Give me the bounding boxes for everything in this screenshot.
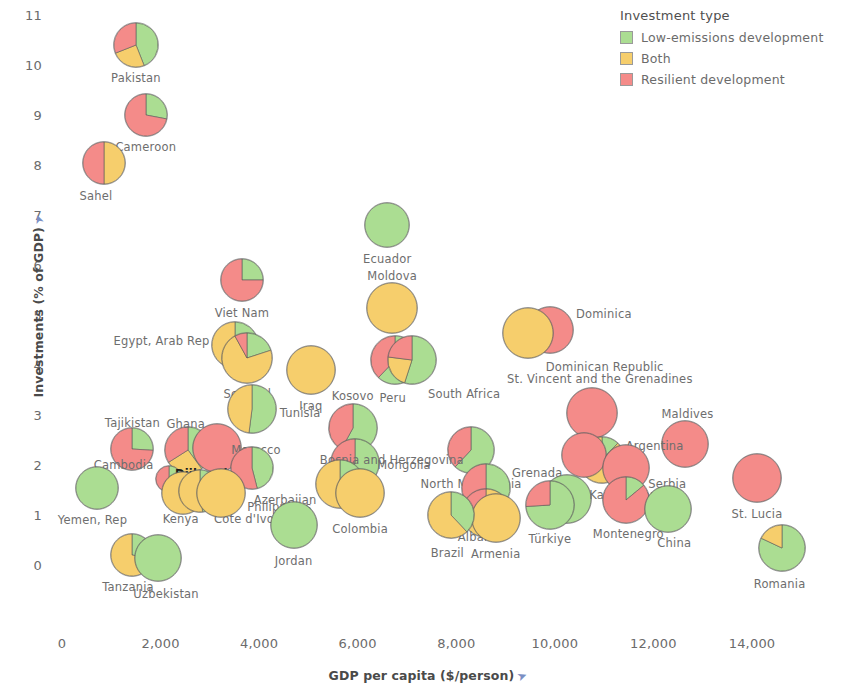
pie-slice-both — [336, 469, 384, 517]
pie-slice-low — [271, 502, 317, 548]
pie-marker[interactable] — [227, 384, 277, 434]
pie-slice-resilient — [526, 481, 550, 507]
pie-slice-low — [75, 467, 117, 509]
y-axis-tick: 11 — [12, 8, 42, 23]
pie-marker[interactable] — [134, 534, 182, 582]
legend-item-resilient[interactable]: Resilient development — [620, 72, 823, 87]
legend-title: Investment type — [620, 8, 823, 23]
pie-slice-both — [503, 308, 553, 358]
point-label: Moldova — [367, 269, 417, 283]
pie-slice-low — [365, 203, 409, 247]
point-label: Uzbekistan — [133, 587, 199, 601]
x-axis-title: GDP per capita ($/person)➤ — [0, 668, 856, 683]
pie-slice-resilient — [83, 142, 104, 184]
point-label: Türkiye — [529, 532, 572, 546]
point-label: Yemen, Rep — [58, 513, 127, 527]
pie-marker[interactable] — [525, 480, 575, 530]
pie-marker[interactable] — [644, 485, 692, 533]
pie-marker[interactable] — [427, 491, 475, 539]
legend-items: Low-emissions developmentBothResilient d… — [620, 30, 823, 87]
pie-slice-low — [242, 259, 263, 280]
point-label: Sahel — [79, 189, 112, 203]
legend-item-label: Both — [641, 51, 671, 66]
y-axis-tick: 2 — [12, 458, 42, 473]
pie-slice-resilient — [562, 433, 606, 477]
point-label: Peru — [379, 391, 405, 405]
pie-marker[interactable] — [758, 524, 806, 572]
pie-slice-resilient — [733, 454, 781, 502]
pie-slice-both — [472, 494, 520, 542]
legend-swatch-icon — [620, 52, 633, 65]
point-label: China — [657, 536, 691, 550]
y-axis-tick: 8 — [12, 158, 42, 173]
pie-marker[interactable] — [82, 141, 126, 185]
pie-marker[interactable] — [387, 335, 437, 385]
legend-swatch-icon — [620, 31, 633, 44]
point-label: Jordan — [275, 554, 313, 568]
pie-marker[interactable] — [561, 432, 607, 478]
point-label: Cameroon — [115, 140, 176, 154]
x-axis-tick: 8,000 — [421, 636, 491, 651]
x-axis-tick: 14,000 — [717, 636, 787, 651]
pie-marker[interactable] — [113, 22, 159, 68]
pie-marker[interactable] — [602, 476, 650, 524]
point-label: Pakistan — [111, 71, 161, 85]
legend-swatch-icon — [620, 73, 633, 86]
point-label: Romania — [754, 577, 806, 591]
pie-marker[interactable] — [366, 282, 418, 334]
pie-slice-both — [287, 346, 335, 394]
x-axis-tick: 10,000 — [520, 636, 590, 651]
pie-marker[interactable] — [270, 501, 318, 549]
pie-slice-low — [132, 428, 153, 450]
pie-marker[interactable] — [566, 387, 618, 439]
point-label: Tajikistan — [105, 416, 160, 430]
pie-marker[interactable] — [196, 468, 246, 518]
y-axis-title: Investments (% of GDP)➤ — [31, 218, 46, 398]
x-axis-tick: 4,000 — [224, 636, 294, 651]
point-label: Brazil — [431, 546, 464, 560]
investment-scatter-chart: 0123456789101102,0004,0006,0008,00010,00… — [0, 0, 856, 694]
point-label: Colombia — [332, 522, 388, 536]
point-label: Viet Nam — [215, 306, 270, 320]
pie-marker[interactable] — [335, 468, 385, 518]
pie-marker[interactable] — [286, 345, 336, 395]
legend-item-both[interactable]: Both — [620, 51, 823, 66]
pie-marker[interactable] — [502, 307, 554, 359]
pie-marker[interactable] — [364, 202, 410, 248]
point-label: St. Vincent and the Grenadines — [507, 372, 693, 386]
x-axis-tick: 2,000 — [126, 636, 196, 651]
pie-marker[interactable] — [221, 332, 273, 384]
pie-marker[interactable] — [220, 258, 264, 302]
legend-item-label: Low-emissions development — [641, 30, 823, 45]
point-label: Armenia — [471, 547, 521, 561]
y-axis-title-text: Investments (% of GDP) — [31, 227, 46, 397]
y-axis-tick: 1 — [12, 508, 42, 523]
pie-slice-both — [197, 469, 245, 517]
pie-slice-low — [135, 535, 181, 581]
point-label: Ecuador — [363, 252, 411, 266]
point-label: Kosovo — [332, 389, 374, 403]
y-axis-tick: 9 — [12, 108, 42, 123]
pie-marker[interactable] — [471, 493, 521, 543]
plot-area: 0123456789101102,0004,0006,0008,00010,00… — [0, 0, 856, 694]
pie-slice-low — [645, 486, 691, 532]
point-label: Montenegro — [593, 527, 664, 541]
pie-slice-resilient — [567, 388, 617, 438]
point-label: Dominica — [576, 307, 632, 321]
y-axis-tick: 0 — [12, 558, 42, 573]
legend-item-low[interactable]: Low-emissions development — [620, 30, 823, 45]
point-label: Egypt, Arab Rep — [114, 334, 210, 348]
sort-arrow-icon[interactable]: ➤ — [515, 668, 529, 685]
pie-marker[interactable] — [75, 466, 119, 510]
pie-marker[interactable] — [124, 93, 168, 137]
point-label: South Africa — [428, 387, 500, 401]
x-axis-tick: 0 — [27, 636, 97, 651]
y-axis-tick: 10 — [12, 58, 42, 73]
pie-slice-both — [367, 283, 417, 333]
x-axis-tick: 12,000 — [618, 636, 688, 651]
legend: Investment type Low-emissions developmen… — [620, 8, 823, 93]
point-label: Tunisia — [280, 406, 321, 420]
pie-slice-low — [249, 385, 276, 433]
pie-marker[interactable] — [732, 453, 782, 503]
legend-item-label: Resilient development — [641, 72, 785, 87]
